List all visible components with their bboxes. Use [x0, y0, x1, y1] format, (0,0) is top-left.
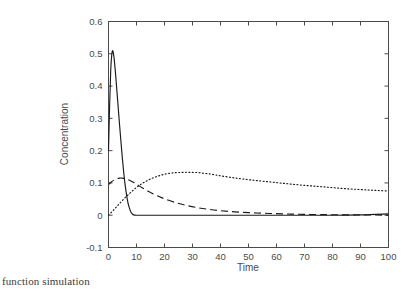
y-tick-label: 0.2 [89, 145, 102, 156]
x-tick-label: 90 [355, 251, 366, 262]
y-tick-label: 0 [97, 210, 102, 221]
y-tick-label: 0.5 [89, 48, 102, 59]
x-tick-label: 0 [106, 251, 111, 262]
figure-container: 0102030405060708090100 -0.100.10.20.30.4… [0, 0, 409, 298]
y-tick-label: 0.1 [89, 177, 102, 188]
x-tick-label: 70 [299, 251, 310, 262]
x-tick-label: 50 [243, 251, 254, 262]
x-tick-label: 40 [215, 251, 226, 262]
x-tick-label: 30 [187, 251, 198, 262]
x-tick-label: 80 [327, 251, 338, 262]
y-tick-label: 0.3 [89, 113, 102, 124]
y-axis-title: Concentration [59, 103, 70, 165]
concentration-time-plot: 0102030405060708090100 -0.100.10.20.30.4… [0, 0, 409, 298]
x-tick-label: 100 [381, 251, 397, 262]
x-axis-title: Time [237, 262, 259, 273]
y-tick-label: 0.6 [89, 16, 102, 27]
figure-caption: function simulation [2, 275, 90, 287]
x-tick-label: 60 [271, 251, 282, 262]
x-tick-label: 10 [131, 251, 142, 262]
x-tick-label: 20 [159, 251, 170, 262]
y-tick-label: 0.4 [89, 80, 102, 91]
y-tick-label: -0.1 [86, 242, 102, 253]
